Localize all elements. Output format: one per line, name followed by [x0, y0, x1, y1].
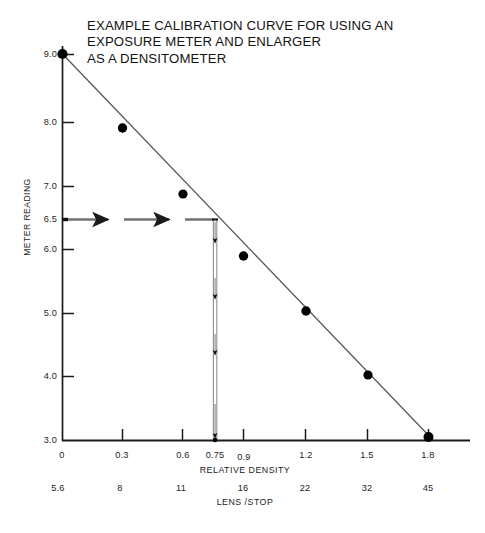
x-tick-label: 1.5 — [344, 450, 390, 460]
axis-lines — [62, 46, 470, 441]
y-tick-label: 6.5 — [21, 214, 57, 224]
y-tick-label: 3.0 — [21, 435, 57, 445]
data-point — [424, 432, 434, 442]
chart-title: EXAMPLE CALIBRATION CURVE FOR USING AN E… — [87, 18, 479, 67]
y-tick-label: 6.0 — [21, 244, 57, 254]
readout-vertical-arrows — [212, 218, 218, 440]
y-tick-label: 5.0 — [21, 308, 57, 318]
lens-stop-tick-label: 45 — [405, 483, 451, 493]
data-point — [178, 189, 187, 198]
x-tick-label: 0.9 — [221, 452, 267, 462]
y-tick-label: 9.0 — [21, 49, 57, 59]
lens-stop-tick-label: 32 — [344, 483, 390, 493]
x-tick-label: 1.8 — [405, 450, 451, 460]
readout-highlight-point — [213, 438, 218, 443]
data-point — [118, 123, 127, 132]
calibration-curve-figure: EXAMPLE CALIBRATION CURVE FOR USING AN E… — [0, 0, 485, 533]
x-tick-label: 0 — [39, 450, 85, 460]
y-tick-label: 7.0 — [21, 181, 57, 191]
lens-stop-axis-label: LENS /STOP — [145, 497, 345, 507]
y-axis-ticks — [63, 55, 75, 377]
data-point — [363, 370, 372, 379]
lens-stop-tick-label: 8 — [97, 483, 143, 493]
lens-stop-tick-label: 11 — [158, 483, 204, 493]
x-axis-label: RELATIVE DENSITY — [145, 465, 345, 475]
lens-stop-tick-label: 16 — [220, 483, 266, 493]
lens-stop-tick-label: 5.6 — [35, 483, 81, 493]
y-tick-label: 4.0 — [21, 371, 57, 381]
data-point — [301, 306, 310, 315]
calibration-line — [63, 54, 434, 440]
lens-stop-tick-label: 22 — [282, 483, 328, 493]
data-point — [239, 251, 248, 260]
x-axis-ticks — [123, 429, 429, 441]
x-tick-label: 1.2 — [283, 450, 329, 460]
y-tick-label: 8.0 — [21, 117, 57, 127]
data-point — [57, 49, 67, 59]
x-tick-label: 0.3 — [99, 450, 145, 460]
